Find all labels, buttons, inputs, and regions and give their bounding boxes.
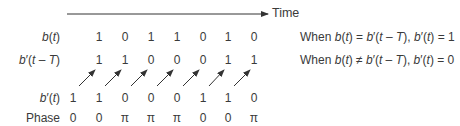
row-label-b: b(t) (42, 30, 60, 44)
diagonal-arrow-icon (234, 70, 250, 86)
cell-b: 1 (220, 30, 236, 44)
diagonal-arrow-icon (105, 70, 121, 86)
cell-b-prime: 0 (143, 91, 159, 105)
cell-b-prime-delayed: 1 (91, 53, 107, 67)
cell-b-prime: 0 (169, 91, 185, 105)
cell-b-prime-delayed: 0 (195, 53, 211, 67)
cell-phase: 0 (220, 111, 236, 125)
cell-b-prime-delayed: 1 (246, 53, 262, 67)
cell-b: 0 (117, 30, 133, 44)
cell-b: 1 (91, 30, 107, 44)
diagonal-arrow-icon (79, 70, 95, 86)
cell-b-prime: 1 (220, 91, 236, 105)
cell-b-prime: 0 (246, 91, 262, 105)
cell-b-prime-delayed: 0 (169, 53, 185, 67)
diagonal-arrow-icon (131, 70, 147, 86)
cell-b-prime-delayed: 0 (143, 53, 159, 67)
cell-phase: 0 (195, 111, 211, 125)
cell-b-prime: 1 (65, 91, 81, 105)
cell-phase: π (246, 111, 262, 125)
cell-phase: π (169, 111, 185, 125)
cell-b-prime: 1 (195, 91, 211, 105)
cell-b-prime-delayed: 1 (117, 53, 133, 67)
cell-b-prime-delayed: 1 (220, 53, 236, 67)
diagonal-arrow-icon (183, 70, 199, 86)
rule-note: When b(t) = b′(t – T), b′(t) = 1 (300, 30, 455, 44)
diagonal-arrow-icon (209, 70, 224, 86)
time-label: Time (272, 6, 299, 20)
cell-phase: π (117, 111, 133, 125)
rule-note: When b(t) ≠ b′(t – T), b′(t) = 0 (300, 53, 454, 67)
row-label-b-prime: b′(t) (40, 91, 60, 105)
cell-b: 0 (195, 30, 211, 44)
cell-phase: 0 (65, 111, 81, 125)
row-label-phase: Phase (26, 111, 60, 125)
diagonal-arrows (79, 70, 250, 86)
cell-b: 1 (169, 30, 185, 44)
cell-b: 1 (143, 30, 159, 44)
row-label-b-prime-delayed: b′(t – T) (19, 53, 60, 67)
cell-b-prime: 1 (91, 91, 107, 105)
diagonal-arrow-icon (157, 70, 173, 86)
cell-b: 0 (246, 30, 262, 44)
cell-b-prime: 0 (117, 91, 133, 105)
cell-phase: 0 (91, 111, 107, 125)
cell-phase: π (143, 111, 159, 125)
